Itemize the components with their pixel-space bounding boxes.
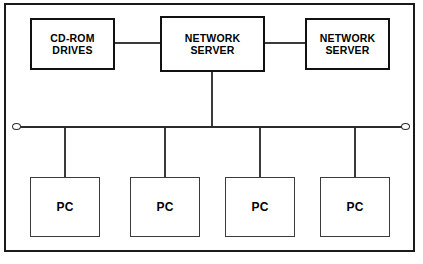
node-pc-3-label: PC <box>251 200 268 214</box>
node-pc-1-label: PC <box>56 200 73 214</box>
bus-terminator-left-icon <box>12 123 21 130</box>
node-pc-2[interactable]: PC <box>130 177 200 237</box>
node-network-server-right-label: NETWORK SERVER <box>320 32 376 57</box>
drop-line-pc-3 <box>259 127 261 177</box>
drop-line-pc-4 <box>354 127 356 177</box>
drop-line-pc-1 <box>64 127 66 177</box>
link-server-to-server <box>265 42 305 44</box>
node-cd-rom-drives-label: CD-ROM DRIVES <box>50 32 94 57</box>
node-cd-rom-drives[interactable]: CD-ROM DRIVES <box>30 18 115 70</box>
network-diagram: CD-ROM DRIVES NETWORK SERVER NETWORK SER… <box>0 0 423 264</box>
node-pc-3[interactable]: PC <box>225 177 295 237</box>
network-bus-line <box>20 126 403 128</box>
bus-terminator-right-icon <box>401 123 410 130</box>
node-network-server-right[interactable]: NETWORK SERVER <box>305 18 390 70</box>
node-pc-4[interactable]: PC <box>320 177 390 237</box>
node-network-server-center-label: NETWORK SERVER <box>185 32 241 57</box>
node-pc-4-label: PC <box>346 200 363 214</box>
node-pc-1[interactable]: PC <box>30 177 100 237</box>
node-network-server-center[interactable]: NETWORK SERVER <box>160 16 265 72</box>
node-pc-2-label: PC <box>156 200 173 214</box>
drop-line-pc-2 <box>164 127 166 177</box>
link-server-to-bus <box>211 72 213 127</box>
link-cdrom-to-server <box>115 42 160 44</box>
